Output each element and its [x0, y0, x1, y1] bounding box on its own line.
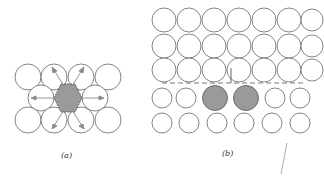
- shaded-atom: [234, 86, 259, 111]
- stray-line: [281, 143, 287, 174]
- shaded-atom: [203, 86, 228, 111]
- figure: (a) (b): [0, 0, 324, 179]
- atom: [15, 107, 41, 133]
- panel-a-label: (a): [61, 151, 72, 160]
- panel-b: [152, 8, 323, 133]
- panel-a: [15, 64, 121, 133]
- atom: [95, 107, 121, 133]
- panel-b-label: (b): [222, 149, 233, 158]
